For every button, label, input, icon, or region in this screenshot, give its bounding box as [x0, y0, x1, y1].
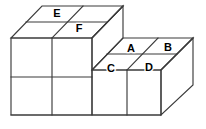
cube-label-a: A — [127, 42, 135, 54]
cube-figure: E F A B C D — [0, 0, 206, 129]
cube-label-d: D — [145, 61, 153, 73]
cube-diagram-svg: E F A B C D — [0, 0, 206, 129]
cube-label-f: F — [76, 22, 83, 34]
cube-label-b: B — [164, 41, 172, 53]
cube-label-e: E — [53, 7, 60, 19]
cube-label-c: C — [107, 62, 115, 74]
